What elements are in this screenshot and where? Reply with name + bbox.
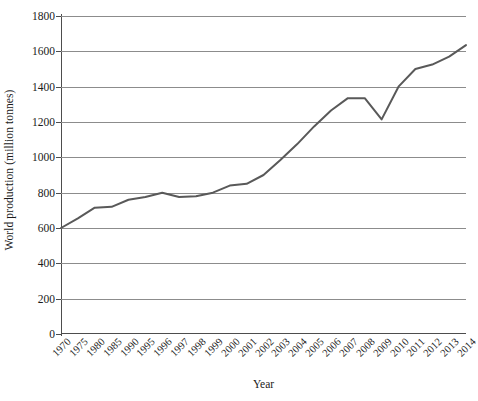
x-tick-label-2014: 2014 <box>455 336 478 359</box>
y-tick-label-0: 0 <box>49 328 55 340</box>
line-chart: World production (million tonnes) 020040… <box>0 0 478 401</box>
y-tick-label-1600: 1600 <box>32 45 55 57</box>
y-axis-tick-labels: 020040060080010001200140016001800 <box>18 0 60 401</box>
x-axis-tick-labels: 1970197519801985199019951996199719981999… <box>61 336 466 378</box>
y-tick-mark-0 <box>56 334 61 335</box>
y-tick-label-1400: 1400 <box>32 81 55 93</box>
y-tick-label-600: 600 <box>38 222 55 234</box>
y-axis-title-label: World production (million tonnes) <box>3 89 15 250</box>
y-tick-label-800: 800 <box>38 187 55 199</box>
x-axis-title: Year <box>61 378 466 390</box>
series-world-production <box>61 16 466 334</box>
plot-area <box>61 16 466 334</box>
y-tick-label-1200: 1200 <box>32 116 55 128</box>
x-axis-title-label: Year <box>253 378 274 390</box>
series-line <box>61 45 466 228</box>
y-tick-label-1000: 1000 <box>32 151 55 163</box>
y-tick-label-400: 400 <box>38 257 55 269</box>
y-tick-label-200: 200 <box>38 293 55 305</box>
y-tick-label-1800: 1800 <box>32 10 55 22</box>
y-axis-title: World production (million tonnes) <box>0 0 18 340</box>
